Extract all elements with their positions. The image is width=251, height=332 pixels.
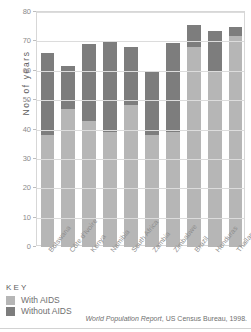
gridline bbox=[37, 100, 244, 101]
bar-segment-without-aids bbox=[145, 71, 159, 136]
y-axis-tick-label: 20 bbox=[5, 183, 31, 192]
source-rest: , US Census Bureau, 1998. bbox=[162, 315, 247, 322]
y-axis-tick-mark bbox=[33, 187, 36, 188]
gridline bbox=[37, 159, 244, 160]
y-axis-tick-label: 50 bbox=[5, 95, 31, 104]
y-axis-tick-label: 40 bbox=[5, 125, 31, 134]
source-publication: World Population Report bbox=[86, 315, 162, 322]
bar-column bbox=[166, 12, 180, 245]
plot-area bbox=[36, 11, 245, 246]
y-axis-tick-mark bbox=[33, 99, 36, 100]
gridline bbox=[37, 130, 244, 131]
legend-item-with-aids: With AIDS bbox=[6, 295, 156, 305]
bar-segment-without-aids bbox=[208, 31, 222, 71]
y-axis-tick-mark bbox=[33, 246, 36, 247]
gridline bbox=[37, 41, 244, 42]
y-axis-tick-label: 60 bbox=[5, 66, 31, 75]
gridline bbox=[37, 188, 244, 189]
life-expectancy-aids-chart: No. of years 80706050403020100 BotswanaC… bbox=[0, 0, 251, 332]
y-axis-tick-mark bbox=[33, 11, 36, 12]
source-citation: World Population Report, US Census Burea… bbox=[86, 315, 247, 322]
bars-layer bbox=[37, 12, 244, 245]
bar-column bbox=[41, 12, 55, 245]
legend-label-without-aids: Without AIDS bbox=[21, 306, 72, 316]
bar-segment-with-aids bbox=[103, 132, 117, 247]
y-axis-tick-label: 30 bbox=[5, 154, 31, 163]
bar-segment-with-aids bbox=[229, 36, 243, 248]
y-axis-tick-label: 80 bbox=[5, 7, 31, 16]
bar-column bbox=[229, 12, 243, 245]
gridline bbox=[37, 71, 244, 72]
y-axis-tick-mark bbox=[33, 217, 36, 218]
y-axis-tick-label: 0 bbox=[5, 242, 31, 251]
y-axis-tick-label: 70 bbox=[5, 36, 31, 45]
bar-segment-without-aids bbox=[124, 47, 138, 104]
y-axis-tick-mark bbox=[33, 158, 36, 159]
bar-segment-without-aids bbox=[166, 43, 180, 133]
bar-segment-with-aids bbox=[124, 105, 138, 247]
bottom-rule bbox=[0, 328, 251, 329]
y-axis-tick-label: 10 bbox=[5, 213, 31, 222]
bar-segment-without-aids bbox=[229, 27, 243, 36]
gridline bbox=[37, 12, 244, 13]
legend: KEY With AIDS Without AIDS bbox=[6, 283, 156, 317]
bar-segment-without-aids bbox=[41, 53, 55, 135]
bar-column bbox=[145, 12, 159, 245]
bar-column bbox=[187, 12, 201, 245]
legend-swatch-without-aids bbox=[6, 307, 15, 316]
bar-column bbox=[103, 12, 117, 245]
bar-column bbox=[124, 12, 138, 245]
legend-label-with-aids: With AIDS bbox=[21, 295, 60, 305]
legend-heading: KEY bbox=[6, 283, 156, 292]
bar-segment-with-aids bbox=[41, 135, 55, 247]
y-axis-tick-mark bbox=[33, 129, 36, 130]
bar-segment-without-aids bbox=[103, 41, 117, 132]
legend-swatch-with-aids bbox=[6, 296, 15, 305]
bar-column bbox=[82, 12, 96, 245]
y-axis-tick-mark bbox=[33, 40, 36, 41]
y-axis-tick-mark bbox=[33, 70, 36, 71]
bar-segment-without-aids bbox=[61, 66, 75, 109]
bar-column bbox=[208, 12, 222, 245]
bar-segment-with-aids bbox=[166, 132, 180, 247]
bar-column bbox=[61, 12, 75, 245]
bar-segment-without-aids bbox=[82, 44, 96, 120]
gridline bbox=[37, 218, 244, 219]
bar-segment-without-aids bbox=[187, 25, 201, 47]
